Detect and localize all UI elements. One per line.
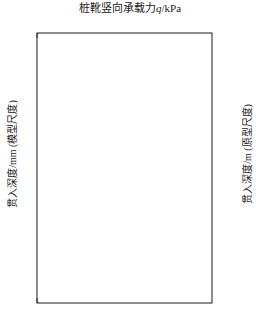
chart-figure: 桩靴竖向承载力q/kPa 贯入深度/mm (模型尺度) 贯入深度/m (原型尺度… [0,0,260,323]
plot-canvas [0,0,260,323]
plot-frame-rect [37,33,212,303]
plot-frame [37,33,212,303]
